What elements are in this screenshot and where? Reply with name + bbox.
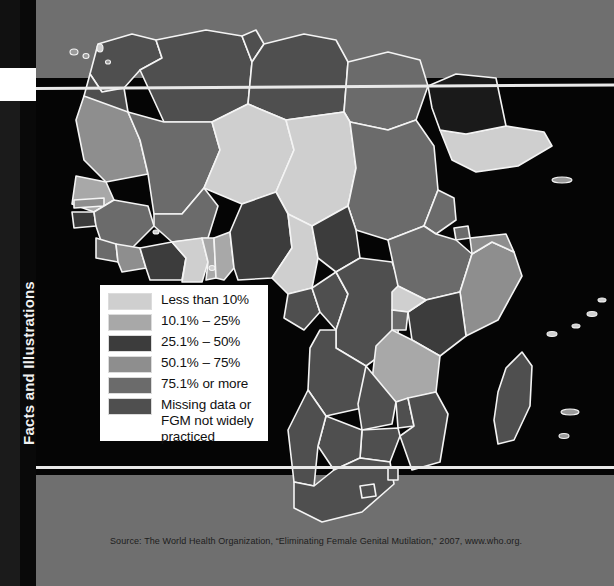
divider-line-bottom (36, 466, 614, 469)
gutter-top-block (0, 0, 20, 68)
legend-item: 10.1% – 25% (100, 310, 268, 331)
legend-item-label: Missing data or FGM not widely practiced (161, 397, 262, 445)
legend-swatch (108, 377, 152, 394)
map-legend: Less than 10% 10.1% – 25% 25.1% – 50% 50… (100, 285, 268, 441)
legend-item-label: 50.1% – 75% (161, 355, 240, 371)
legend-item-label: Less than 10% (161, 292, 249, 308)
legend-swatch (108, 356, 152, 373)
legend-swatch (108, 398, 152, 415)
page-root: Facts and Illustrations Less than 10% 10… (0, 0, 614, 586)
legend-item: 75.1% or more (100, 373, 268, 394)
legend-swatch (108, 335, 152, 352)
legend-item-label: 25.1% – 50% (161, 334, 240, 350)
legend-item-label: 75.1% or more (161, 376, 248, 392)
legend-item: Missing data or FGM not widely practiced (100, 394, 268, 445)
legend-swatch (108, 293, 152, 310)
source-citation: Source: The World Health Organization, “… (110, 536, 522, 546)
legend-item: 25.1% – 50% (100, 331, 268, 352)
legend-item: Less than 10% (100, 285, 268, 310)
legend-item: 50.1% – 75% (100, 352, 268, 373)
legend-item-label: 10.1% – 25% (161, 313, 240, 329)
map-container (36, 0, 614, 530)
gutter-white-notch (0, 68, 36, 101)
legend-swatch (108, 314, 152, 331)
africa-choropleth-map (36, 0, 614, 530)
